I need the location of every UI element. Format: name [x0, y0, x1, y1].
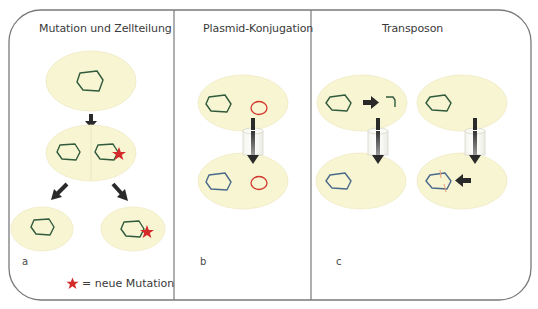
cell-donor — [317, 75, 407, 131]
cell-recipient — [316, 153, 406, 209]
panel-title-b: Plasmid-Konjugation — [203, 22, 313, 35]
cell-donor — [198, 75, 288, 131]
panel-c — [316, 75, 507, 209]
cell-recipient — [198, 153, 288, 209]
cell-daughter-right — [101, 207, 165, 251]
cell-parent — [46, 51, 136, 111]
legend-text: = neue Mutation — [82, 277, 174, 290]
figure: Mutation und Zellteilung Plasmid-Konjuga… — [0, 0, 538, 309]
legend: = neue Mutation — [66, 277, 174, 290]
cell-dividing — [46, 125, 136, 181]
star-icon — [66, 277, 79, 290]
cell-donor-2 — [417, 75, 507, 131]
diagram-canvas — [0, 0, 538, 309]
panel-label-b: b — [200, 256, 206, 267]
arrow-down-right-icon — [113, 184, 128, 201]
panel-b — [198, 75, 288, 209]
cell-recipient-2 — [417, 153, 507, 209]
panel-title-a: Mutation und Zellteilung — [39, 22, 172, 35]
panel-label-a: a — [22, 256, 28, 267]
panel-a — [11, 51, 165, 251]
cell-daughter-left — [11, 207, 73, 251]
panel-title-c: Transposon — [382, 22, 443, 35]
arrow-down-left-icon — [51, 184, 67, 200]
panel-label-c: c — [336, 256, 342, 267]
